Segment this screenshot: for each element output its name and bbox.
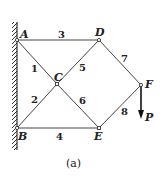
member-label-5: 5 [79, 62, 86, 73]
node-label-E: E [93, 130, 103, 143]
node-label-B: B [17, 130, 27, 143]
member-label-8: 8 [121, 106, 128, 117]
member-label-4: 4 [56, 131, 63, 142]
member-label-7: 7 [121, 53, 128, 64]
member-7 [99, 40, 141, 85]
member-8 [99, 85, 141, 128]
member-label-2: 2 [31, 94, 38, 105]
member-label-6: 6 [79, 95, 86, 106]
node-label-D: D [94, 26, 105, 39]
member-2 [17, 84, 57, 128]
figure-caption: (a) [66, 157, 81, 170]
node-label-A: A [19, 28, 29, 41]
member-5 [57, 40, 99, 84]
load-arrow [138, 85, 144, 119]
member-label-1: 1 [31, 63, 38, 74]
member-label-3: 3 [58, 29, 65, 40]
member-1 [17, 40, 57, 84]
load-label-P: P [144, 111, 154, 124]
joint-F [139, 83, 142, 86]
truss-diagram: A B C D E F 1 2 3 4 5 6 7 8 P (a) [0, 0, 165, 178]
joint-A [15, 38, 18, 41]
member-6 [57, 84, 99, 128]
node-label-F: F [144, 78, 154, 91]
node-label-C: C [54, 71, 63, 84]
